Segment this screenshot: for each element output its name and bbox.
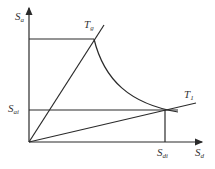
tg-line	[29, 25, 104, 142]
t1-line	[29, 103, 196, 142]
tg-label: Tg	[84, 19, 94, 32]
sdi-label: Sdi	[157, 147, 168, 160]
hyperbolic-curve	[94, 39, 178, 112]
x-axis-label: Sd	[195, 147, 204, 160]
stress-diagram: Sa Sd Tg T1 Sai Sdi	[0, 0, 215, 169]
diagram-canvas	[0, 0, 215, 169]
t1-label: T1	[184, 89, 194, 102]
y-axis-label: Sa	[15, 11, 24, 24]
sai-label: Sai	[8, 103, 19, 116]
